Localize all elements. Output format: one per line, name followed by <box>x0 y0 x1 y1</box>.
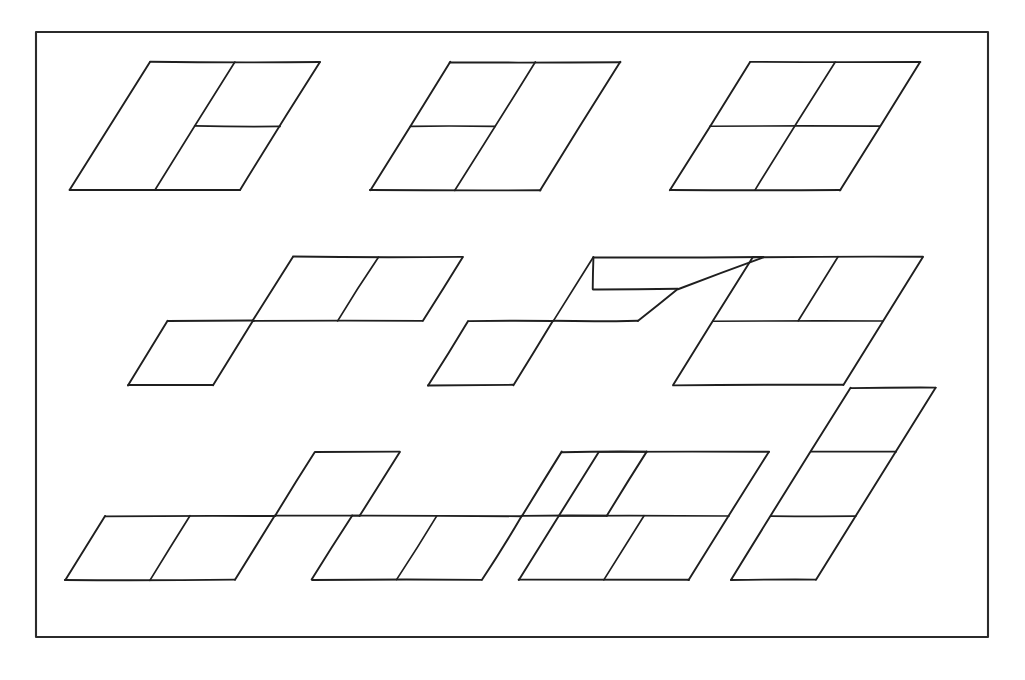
figure-row3-col4 <box>731 388 936 580</box>
outer-border <box>36 32 988 637</box>
short-right-edge <box>638 289 678 321</box>
mid-edge-a <box>553 321 638 322</box>
vertical-divider-upper <box>798 257 838 321</box>
short-top-edge <box>593 289 678 290</box>
vertical-divider <box>553 257 593 321</box>
horizontal-divider-right <box>195 126 280 127</box>
right-edge <box>423 257 463 321</box>
upper-left-edge <box>275 452 315 516</box>
left-edge <box>70 62 150 190</box>
vertical-divider-lower <box>604 516 644 580</box>
right-edge <box>816 388 936 580</box>
figure-row1-col3 <box>670 62 921 191</box>
upper-right-edge <box>360 452 400 516</box>
lower-right-edge <box>235 516 275 580</box>
top-edge <box>593 257 763 258</box>
vertical-divider <box>397 516 437 580</box>
vertical-divider <box>150 516 190 581</box>
bottom-edge <box>428 385 513 386</box>
lower-left-edge <box>128 321 168 386</box>
figure-row1-col1 <box>70 62 320 190</box>
top-edge <box>851 388 936 389</box>
left-edge <box>65 516 105 580</box>
lower-right-edge <box>482 516 522 580</box>
left-edge <box>312 516 353 580</box>
figures-canvas <box>0 0 1025 680</box>
lower-left-edge <box>428 321 468 385</box>
figures-group <box>65 62 936 581</box>
lower-right-edge <box>213 321 253 385</box>
figure-row2-col1 <box>128 257 463 386</box>
upper-left-edge <box>253 257 293 321</box>
lower-right-edge <box>513 321 552 385</box>
bottom-edge <box>673 385 843 386</box>
figure-row1-col2 <box>370 62 621 191</box>
figure-row3-col1 <box>65 452 400 581</box>
right-edge <box>540 62 620 191</box>
vertical-divider <box>338 257 379 321</box>
upper-left-edge <box>522 452 561 516</box>
upper-right-edge <box>607 452 647 516</box>
upper-left-step <box>593 257 594 289</box>
figure-sheet <box>0 0 1025 680</box>
